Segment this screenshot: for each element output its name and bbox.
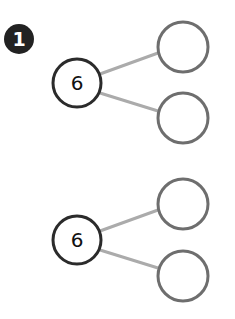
number-bond-diagram: 6 6 <box>0 0 235 319</box>
part-circle-2a[interactable] <box>158 179 208 229</box>
connector-line-2b <box>100 250 158 268</box>
whole-value-1: 6 <box>71 71 84 95</box>
connector-line-1b <box>100 93 158 111</box>
whole-value-2: 6 <box>71 228 84 252</box>
number-bond-1: 6 <box>53 22 208 143</box>
part-circle-1a[interactable] <box>158 22 208 72</box>
connector-line-2a <box>100 210 158 231</box>
number-bond-2: 6 <box>53 179 208 301</box>
part-circle-2b[interactable] <box>158 251 208 301</box>
connector-line-1a <box>100 53 158 74</box>
part-circle-1b[interactable] <box>158 93 208 143</box>
